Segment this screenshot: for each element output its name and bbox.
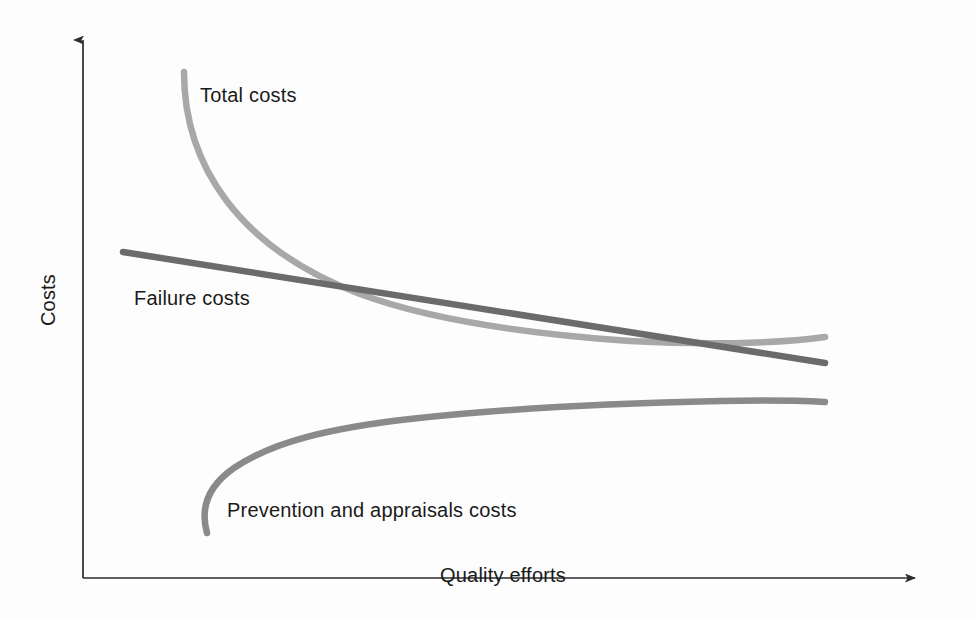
series-label-prevention-appraisals-costs: Prevention and appraisals costs: [227, 499, 517, 522]
y-axis-label: Costs: [37, 274, 60, 326]
series-total-costs-curve: [184, 72, 825, 343]
series-label-failure-costs: Failure costs: [134, 287, 250, 310]
series-label-total-costs: Total costs: [200, 84, 297, 107]
quality-cost-chart: Total costs Failure costs Prevention and…: [0, 0, 976, 619]
x-axis-label: Quality efforts: [440, 564, 566, 587]
